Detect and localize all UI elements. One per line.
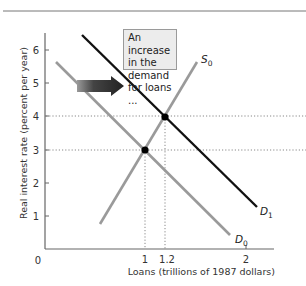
y-tick-4: 4 [33, 111, 39, 122]
x-axis-title: Loans (trillions of 1987 dollars) [128, 266, 275, 277]
s0-label: S0 [201, 53, 213, 68]
y-axis-title: Real interest rate (percent per year) [18, 47, 29, 219]
origin-label: 0 [35, 255, 41, 266]
x-tick-1: 1 [142, 254, 148, 265]
y-tick-3: 3 [33, 145, 39, 156]
equilibrium-point-initial [141, 146, 148, 153]
y-tick-2: 2 [33, 178, 39, 189]
y-tick-6: 6 [33, 45, 39, 56]
x-tick-1-2: 1.2 [159, 254, 175, 265]
y-tick-5: 5 [33, 78, 39, 89]
d1-label: D1 [260, 205, 273, 220]
x-tick-2: 2 [243, 254, 249, 265]
d0-label: D0 [235, 233, 248, 248]
equilibrium-point-new [161, 113, 168, 120]
shift-arrow-icon [77, 76, 124, 96]
callout-box: An increase in the demand for loans ... [123, 29, 177, 70]
y-tick-1: 1 [33, 211, 39, 222]
